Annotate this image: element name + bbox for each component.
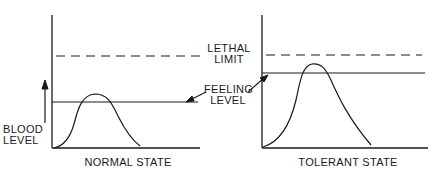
tolerant-state-title: TOLERANT STATE	[295, 157, 401, 168]
y-axis-label: BLOOD LEVEL	[3, 124, 43, 146]
y-axis-label-line2: LEVEL	[3, 135, 43, 146]
tolerant-blood-level-curve	[263, 64, 371, 147]
arrow-left-icon	[186, 96, 194, 102]
arrow-up-icon	[42, 80, 48, 89]
feeling-level-label: FEELING LEVEL	[204, 84, 252, 106]
panel-normal-state	[52, 15, 200, 148]
panel-tolerant-state	[262, 15, 428, 148]
blood-level-arrow	[42, 80, 48, 123]
normal-state-title: NORMAL STATE	[80, 157, 176, 168]
feeling-label-line2: LEVEL	[204, 95, 252, 106]
lethal-label-line2: LIMIT	[202, 54, 256, 65]
lethal-limit-label: LETHAL LIMIT	[202, 43, 256, 65]
